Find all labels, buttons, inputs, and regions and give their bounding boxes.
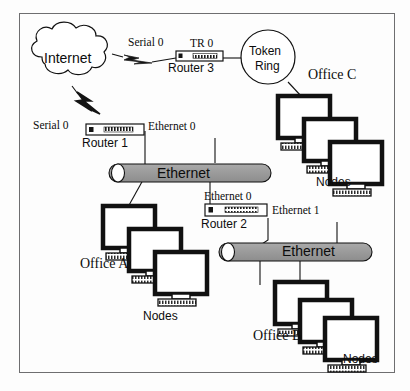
router-1-icon <box>86 124 144 135</box>
ethernet-1-router2-label: Ethernet 1 <box>272 205 320 217</box>
office-c-label: Office C <box>308 68 356 82</box>
tr-0-router3-label: TR 0 <box>190 38 213 50</box>
network-diagram-canvas: Internet Serial 0 TR 0 Token Ring Router… <box>0 0 410 391</box>
serial-lightning-router3-icon <box>124 55 152 64</box>
node-monitor <box>155 252 207 306</box>
link-internet-router3-stub <box>112 54 123 57</box>
ethernet-0-router1-label: Ethernet 0 <box>148 121 196 133</box>
ethernet-0-router2-label: Ethernet 0 <box>204 191 252 203</box>
ethernet-bus-b-label: Ethernet <box>282 244 335 258</box>
link-busa-officea <box>128 180 143 207</box>
office-b-nodes-label: Nodes <box>343 353 378 365</box>
office-a-label: Office A <box>80 257 128 271</box>
router-3-label: Router 3 <box>168 62 214 74</box>
office-a-nodes-label: Nodes <box>143 310 178 322</box>
router-2-label: Router 2 <box>201 218 247 230</box>
serial-lightning-router1-icon <box>76 92 100 114</box>
router-3-icon <box>176 51 223 61</box>
serial-0-router3-label: Serial 0 <box>128 37 163 49</box>
token-ring-label-line2: Ring <box>255 60 280 72</box>
token-ring-label-line1: Token <box>249 45 281 57</box>
router-1-label: Router 1 <box>82 137 128 149</box>
serial-0-router1-label: Serial 0 <box>33 120 68 132</box>
office-c-nodes-label: Nodes <box>316 176 351 188</box>
router-2-icon <box>205 204 267 216</box>
office-b-label: Office B <box>253 329 301 343</box>
ethernet-bus-a-label: Ethernet <box>157 166 210 180</box>
internet-cloud <box>32 22 108 74</box>
internet-cloud-label: Internet <box>44 51 91 65</box>
